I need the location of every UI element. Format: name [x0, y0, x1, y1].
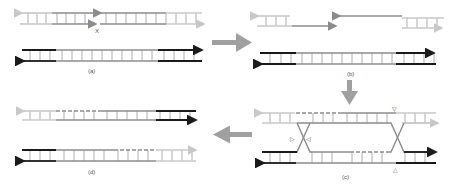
- left-arrow-icon: [213, 126, 252, 144]
- panel-label-c: (c): [342, 174, 349, 180]
- cleavage-marker-right: ◁: [306, 136, 311, 142]
- duplex-donor: [22, 50, 202, 61]
- duplex-recombinant-bottom: [22, 150, 196, 161]
- cleavage-marker-bottom: △: [393, 167, 398, 173]
- panel-c: ▽ ▷ ◁ △ (c): [262, 106, 438, 180]
- duplex-recombinant-top: [22, 111, 196, 120]
- panel-label-d: (d): [88, 169, 95, 175]
- cleavage-marker-top: ▽: [392, 106, 397, 112]
- panel-label-a: (a): [88, 68, 95, 74]
- duplex-resected: [257, 16, 444, 28]
- recombination-diagram: X (a): [0, 0, 456, 187]
- panel-b: (b): [257, 16, 444, 77]
- cleavage-marker-left: ▷: [290, 136, 295, 142]
- base-pair-rungs: [28, 13, 196, 24]
- down-arrow-icon: [341, 80, 358, 105]
- duplex-damaged: X: [20, 13, 204, 34]
- break-marker: X: [95, 28, 99, 34]
- panel-label-b: (b): [347, 71, 354, 77]
- duplex-donor: [260, 53, 436, 64]
- panel-d: (d): [22, 111, 196, 175]
- panel-a: X (a): [20, 13, 204, 74]
- right-arrow-icon: [212, 33, 252, 52]
